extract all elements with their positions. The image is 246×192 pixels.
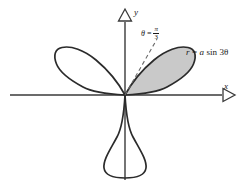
polar-rose-figure: y x θ=π3 r=asin3θ (0, 0, 246, 192)
theta-equals-sign: = (147, 29, 152, 38)
equation-equals-sign: = (192, 47, 197, 57)
figure-canvas (0, 0, 246, 192)
theta-ray-label: θ=π3 (141, 26, 159, 42)
equation-lhs: r (186, 47, 190, 57)
polar-equation-label: r=asin3θ (186, 48, 228, 57)
equation-argument: 3θ (220, 47, 229, 57)
equation-function-name: sin (207, 47, 218, 57)
pi-over-three-fraction: π3 (153, 26, 159, 42)
shaded-petal-region (125, 47, 195, 95)
equation-coefficient: a (200, 47, 205, 57)
y-axis-arrowhead-icon (119, 9, 132, 21)
x-axis-label: x (224, 82, 228, 91)
fraction-denominator: 3 (153, 34, 159, 41)
rose-petal-upper-left (55, 47, 125, 95)
y-axis-label: y (134, 8, 138, 17)
theta-symbol: θ (141, 29, 145, 38)
